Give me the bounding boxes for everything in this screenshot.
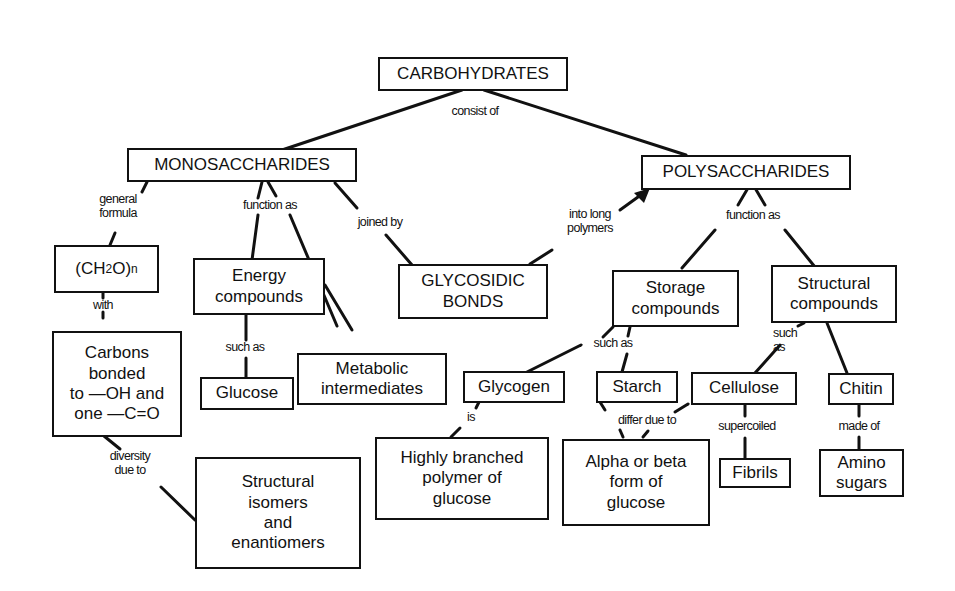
node-fibrils: Fibrils [719, 458, 791, 488]
link-made-of: made of [826, 419, 892, 433]
node-glucose: Glucose [200, 377, 294, 410]
formula-mid: O) [112, 259, 131, 279]
node-cellulose: Cellulose [691, 372, 797, 405]
link-into-long-polymers: into long polymers [550, 207, 630, 236]
node-structural-compounds: Structural compounds [771, 265, 897, 323]
formula-n: n [131, 262, 138, 276]
node-energy-compounds: Energy compounds [193, 258, 325, 315]
concept-map: CARBOHYDRATES MONOSACCHARIDES POLYSACCHA… [0, 0, 955, 591]
node-carbohydrates: CARBOHYDRATES [378, 57, 568, 91]
node-amino-sugars: Amino sugars [819, 449, 904, 497]
node-carbons-bonded: Carbons bonded to —OH and one —C=O [52, 331, 182, 437]
link-function-as-mono: function as [230, 198, 310, 212]
node-storage-compounds: Storage compounds [612, 270, 739, 327]
link-consist-of: consist of [440, 104, 510, 118]
link-differ-due-to: differ due to [597, 413, 697, 427]
formula-prefix: (CH [75, 259, 105, 279]
link-is: is [461, 410, 481, 424]
link-diversity-due-to: diversity due to [95, 449, 165, 478]
node-chitin: Chitin [828, 373, 894, 405]
node-highly-branched: Highly branched polymer of glucose [375, 437, 549, 520]
node-glycogen: Glycogen [463, 371, 565, 403]
link-supercoiled: supercoiled [705, 419, 789, 433]
link-function-as-poly: function as [708, 208, 798, 222]
node-starch: Starch [596, 371, 678, 403]
node-alpha-beta: Alpha or beta form of glucose [562, 439, 710, 526]
link-joined-by: joined by [340, 215, 420, 229]
link-such-as-structural: such as [773, 326, 813, 355]
link-such-as-energy: such as [210, 340, 280, 354]
node-monosaccharides: MONOSACCHARIDES [127, 148, 357, 182]
formula-subscript: 2 [105, 262, 112, 276]
node-metabolic-intermediates: Metabolic intermediates [297, 353, 447, 405]
link-with: with [83, 298, 123, 312]
node-formula: (CH2O)n [54, 245, 159, 293]
node-structural-isomers: Structural isomers and enantiomers [195, 457, 361, 569]
link-such-as-storage: such as [578, 336, 648, 350]
node-polysaccharides: POLYSACCHARIDES [641, 155, 851, 190]
link-general-formula: general formula [88, 192, 148, 221]
node-glycosidic-bonds: GLYCOSIDIC BONDS [398, 264, 548, 319]
